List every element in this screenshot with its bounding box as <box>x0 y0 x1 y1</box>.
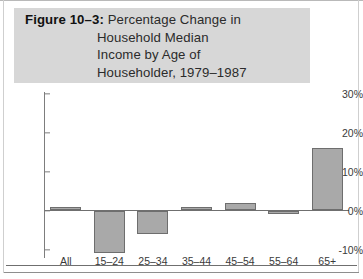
x-tick-label: 65+ <box>318 255 336 267</box>
x-tick-label: 55–64 <box>269 255 298 267</box>
x-tick-label: 45–54 <box>225 255 254 267</box>
bar <box>268 211 299 215</box>
bar <box>225 203 256 211</box>
bar <box>94 211 125 254</box>
x-tick-label: 35–44 <box>182 255 211 267</box>
figure-container: Figure 10–3: Figure 10–3: Percentage Cha… <box>0 0 363 279</box>
y-tick-mark <box>44 249 50 250</box>
bar <box>312 148 343 210</box>
bar <box>50 207 81 211</box>
y-tick-label: -10% <box>327 244 363 256</box>
y-tick-mark <box>44 132 50 133</box>
y-tick-label: 30% <box>327 88 363 100</box>
y-tick-mark <box>44 93 50 94</box>
chart-plot-area: -10%0%10%20%30% All15–2425–3435–4445–545… <box>0 0 363 279</box>
bar <box>137 211 168 234</box>
x-tick-label: 25–34 <box>138 255 167 267</box>
x-tick-label: All <box>60 255 72 267</box>
x-tick-label: 15–24 <box>95 255 124 267</box>
y-tick-mark <box>44 210 50 211</box>
y-tick-label: 20% <box>327 127 363 139</box>
y-tick-mark <box>44 171 50 172</box>
bar <box>181 207 212 211</box>
y-axis-line <box>44 92 45 258</box>
